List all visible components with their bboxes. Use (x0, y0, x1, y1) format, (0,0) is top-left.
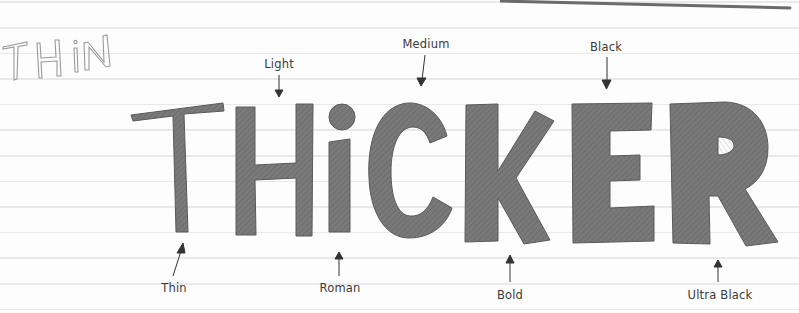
letter-i (329, 139, 350, 232)
arrow-thin-icon (177, 243, 185, 253)
letter-h (236, 104, 313, 236)
thin-outline-word (3, 35, 110, 80)
letter-t (131, 103, 224, 232)
arrow-medium-icon (417, 78, 426, 86)
arrow-ultra-black-icon (714, 260, 722, 267)
arrow-light-icon (275, 90, 283, 97)
letter-i-dot (329, 104, 355, 130)
arrow-black-icon (602, 80, 611, 89)
thicker-word (131, 102, 778, 246)
arrow-bold-icon (506, 255, 514, 263)
label-ultra-black: Ultra Black (688, 288, 753, 302)
label-thin: Thin (161, 281, 187, 295)
lettering-illustration (0, 0, 799, 313)
arrow-roman-icon (335, 252, 343, 259)
label-roman: Roman (319, 281, 360, 295)
label-black: Black (590, 40, 622, 54)
label-bold: Bold (497, 288, 523, 302)
label-medium: Medium (402, 37, 449, 51)
label-light: Light (264, 57, 294, 71)
